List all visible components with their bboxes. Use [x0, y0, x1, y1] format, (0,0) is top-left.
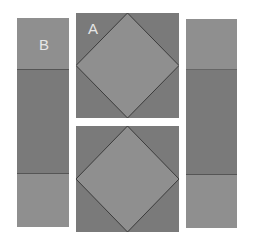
label-a: A	[88, 21, 98, 36]
center-block-a: A	[76, 13, 179, 118]
square-in-square-bottom	[76, 126, 179, 232]
right-strip-top-segment	[186, 19, 237, 70]
left-strip-b: B	[17, 18, 69, 227]
right-strip	[186, 19, 237, 228]
right-strip-bottom-segment	[186, 175, 237, 228]
label-b: B	[39, 37, 49, 52]
right-strip-middle-segment	[186, 70, 237, 175]
left-strip-bottom-segment	[17, 174, 69, 227]
center-block-bottom	[76, 126, 179, 232]
left-strip-middle-segment	[17, 70, 69, 174]
